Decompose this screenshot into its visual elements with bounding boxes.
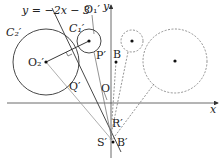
label-s-prime: S′: [97, 136, 108, 149]
label-b: B: [113, 48, 121, 61]
point-small-dashed-center: [130, 39, 133, 42]
point-o2-prime: [44, 60, 47, 63]
x-axis-label: x: [210, 103, 217, 116]
line-label: y = −2x − 3: [21, 4, 90, 17]
line-o1-arrow: [92, 15, 94, 34]
label-p-prime: P′: [96, 49, 106, 62]
label-o2-prime: O₂′: [28, 56, 44, 69]
line-p-to-s: [94, 52, 112, 140]
line-o2-to-s: [46, 62, 112, 140]
label-o: O: [101, 82, 110, 95]
label-c1-prime: C₁′: [69, 22, 85, 35]
label-c2-prime: C₂′: [6, 26, 22, 39]
dashed-line-2: [112, 84, 154, 140]
dashed-line-3: [112, 62, 116, 120]
point-o1-prime: [87, 39, 90, 42]
diagram: y = −2x − 3 y x C₂′ C₁′ O₁′ O₂′ P′ B O Q…: [0, 0, 224, 160]
label-q-prime: Q′: [69, 80, 81, 93]
point-b-prime: [112, 141, 115, 144]
geometry-figure: y = −2x − 3 y x C₂′ C₁′ O₁′ O₂′ P′ B O Q…: [0, 0, 224, 160]
label-o1-prime: O₁′: [84, 3, 100, 16]
right-angle-mark: [66, 52, 72, 56]
point-large-dashed-center: [173, 59, 176, 62]
y-axis-label: y: [102, 0, 110, 13]
label-r-prime: R′: [112, 117, 123, 130]
label-b-prime: B′: [117, 136, 128, 149]
